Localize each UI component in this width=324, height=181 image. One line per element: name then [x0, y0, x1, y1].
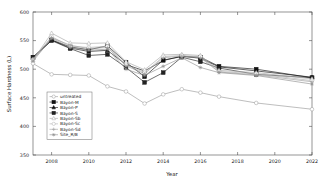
x-tick-label: 2014 [157, 159, 169, 164]
x-tick-label: 2008 [45, 159, 57, 164]
y-tick-label: 350 [20, 153, 29, 158]
x-tick-label: 2010 [83, 159, 95, 164]
legend-label: Bayon-P [60, 105, 78, 110]
legend-label: Bayon-S [60, 111, 78, 116]
legend-label: Bayon-M [60, 100, 79, 105]
legend-item-bayon-m[interactable]: Bayon-M [50, 100, 80, 105]
legend-label: Bayon-Sd [60, 127, 81, 132]
legend-item-bayon-s[interactable]: Bayon-S [50, 111, 79, 116]
x-axis-title: Year [165, 171, 178, 177]
x-tick-label: 2016 [194, 159, 206, 164]
legend-label: untreated [60, 94, 81, 99]
x-tick-label: 2022 [306, 159, 318, 164]
y-tick-label: 500 [20, 67, 29, 72]
y-tick-label: 600 [20, 10, 29, 15]
legend-label: Bayon-Sb [60, 116, 81, 121]
y-tick-label: 400 [20, 124, 29, 129]
chart-background [0, 0, 324, 181]
legend-label: Bayon-Sc [60, 121, 81, 126]
x-tick-label: 2018 [231, 159, 243, 164]
chart-legend: untreatedBayon-MBayon-PBayon-SBayon-SbBa… [47, 92, 92, 140]
chart-figure: 350400450500550600 200820102012201420162… [0, 0, 324, 181]
x-tick-label: 2020 [269, 159, 281, 164]
y-tick-label: 550 [20, 38, 29, 43]
y-tick-label: 450 [20, 96, 29, 101]
x-tick-label: 2012 [120, 159, 132, 164]
y-axis-title: Surface Hardness (L) [6, 56, 12, 112]
surface-hardness-line-chart: 350400450500550600 200820102012201420162… [0, 0, 324, 181]
